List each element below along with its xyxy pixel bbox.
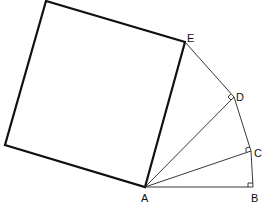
label-D: D [236, 91, 244, 103]
right-angle-mark-B [248, 183, 253, 187]
label-E: E [187, 32, 194, 44]
label-A: A [141, 192, 149, 204]
segment-BC [251, 151, 253, 187]
right-angle-marks [228, 94, 253, 187]
geometry-diagram: A B C D E [0, 0, 265, 210]
label-B: B [251, 192, 258, 204]
square-on-AE [5, 1, 185, 187]
right-angle-mark-D [228, 94, 231, 100]
segment-DE [185, 42, 234, 97]
segment-CD [234, 97, 251, 151]
label-C: C [254, 147, 262, 159]
triangle-lines [145, 42, 253, 187]
segment-AC [145, 151, 251, 187]
